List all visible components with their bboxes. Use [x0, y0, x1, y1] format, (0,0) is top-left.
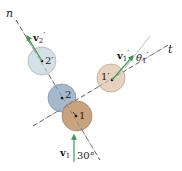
ball-2-label: 2	[65, 89, 71, 100]
ball-1-prime-label: 1′	[101, 71, 110, 82]
ball-1-prime: 1′	[97, 64, 125, 92]
n-axis-label: n	[6, 7, 13, 20]
theta1-prime-label: θ1′	[136, 50, 149, 65]
collision-diagram: 2′ 2 1 1′ n t v2′ v1′ θ1′ v1 30°	[0, 0, 182, 171]
incoming-angle-label: 30°	[77, 150, 95, 161]
v1-prime-label: v1′	[116, 48, 129, 63]
ball-1: 1	[62, 101, 92, 131]
ball-2-prime-label: 2′	[45, 55, 54, 66]
t-axis-label: t	[168, 43, 173, 56]
v2-prime-label: v2′	[32, 30, 45, 45]
ball-1-label: 1	[79, 110, 85, 121]
v1-label: v1	[59, 147, 70, 160]
